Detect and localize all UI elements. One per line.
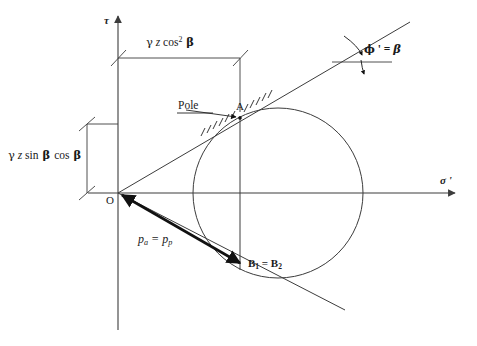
cos-text-v: cos (54, 149, 69, 161)
b-equals-sign: = (259, 257, 271, 269)
pole-callout-label: Pole (178, 100, 198, 112)
shear-stress-axis-label: τ (104, 15, 109, 26)
b2-subscript: 2 (278, 262, 282, 271)
z-symbol-h: z (153, 36, 163, 48)
angle-equals-sign: = (381, 43, 393, 55)
beta-symbol: β (393, 42, 401, 56)
beta-symbol-v2: β (70, 148, 82, 162)
vertical-dimension-group (79, 117, 118, 200)
pa-subscript: a (144, 238, 148, 247)
pole-point-label: A (236, 101, 244, 112)
gamma-symbol-v: γ (8, 148, 15, 162)
z-symbol-v: z (15, 149, 25, 161)
beta-symbol-v1: β (39, 148, 55, 162)
lower-failure-envelope-line (118, 193, 345, 310)
cos-exponent-h: 2 (178, 35, 182, 44)
pp-subscript: p (168, 238, 172, 247)
sin-text-v: sin (25, 149, 38, 161)
gamma-symbol-h: γ (146, 35, 153, 49)
b1-equals-b2-label: B1 = B2 (248, 258, 282, 269)
phi-symbol: ϕ (364, 42, 375, 56)
beta-symbol-h: β (182, 35, 194, 49)
cos-text-h: cos (163, 36, 178, 48)
mohr-circle-figure: τ σ ' O A Pole B1 = B2 pa = pp ϕ ' = β γ… (0, 0, 477, 346)
axis-group (88, 16, 455, 330)
pressure-equals-sign: = (148, 232, 162, 246)
origin-label: O (106, 195, 114, 206)
friction-angle-label: ϕ ' = β (364, 44, 401, 56)
earth-pressure-resultant-arrow (122, 195, 240, 263)
vertical-dimension-label: γ z sin β cos β (8, 150, 81, 162)
active-passive-pressure-label: pa = pp (138, 233, 172, 245)
normal-stress-axis-label: σ ' (440, 175, 452, 186)
diagram-canvas (0, 0, 477, 346)
b1-subscript: 1 (255, 262, 259, 271)
pole-point-marker (238, 116, 242, 120)
horizontal-dimension-label: γ z cos2 β (146, 37, 194, 49)
